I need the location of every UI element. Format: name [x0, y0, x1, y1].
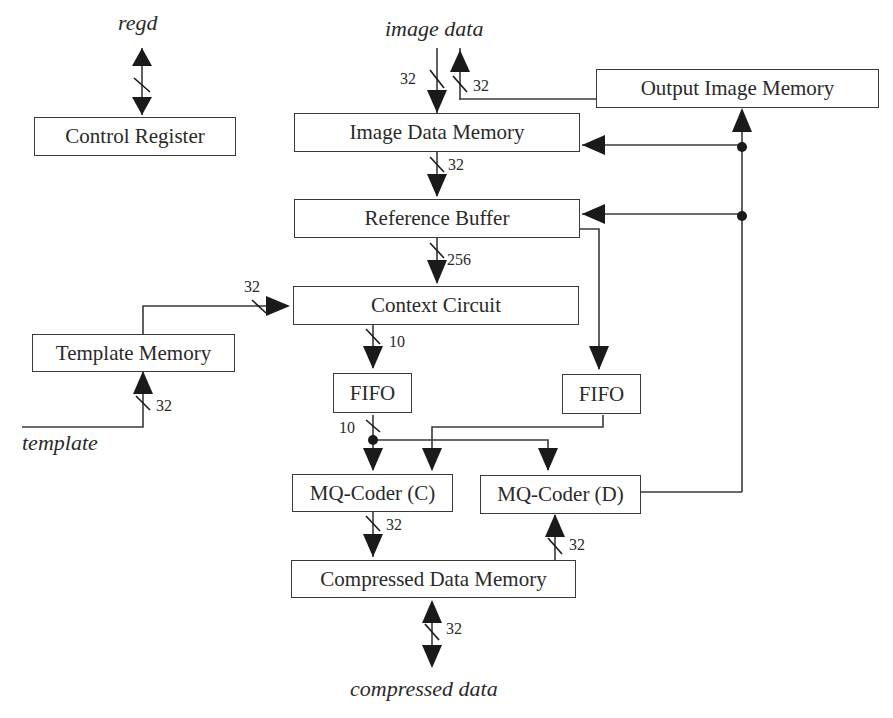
context-circuit-block: Context Circuit — [293, 286, 579, 325]
compressed-data-label: compressed data — [350, 676, 498, 702]
image-data-label: image data — [385, 16, 483, 42]
reference-buffer-block: Reference Buffer — [294, 199, 580, 238]
bus-width-fifo-out: 10 — [339, 419, 355, 437]
bus-width-mqc-cdm: 32 — [386, 516, 402, 534]
arrow-up-icon — [132, 48, 152, 66]
compressed-data-memory-block: Compressed Data Memory — [291, 560, 576, 598]
bus-width-idm-rb: 32 — [448, 156, 464, 174]
control-register-block: Control Register — [34, 117, 236, 156]
bus-width-template-in: 32 — [156, 397, 172, 415]
bus-width-cc-fifo: 10 — [389, 333, 405, 351]
regd-label: regd — [118, 10, 158, 36]
bus-width-image-in: 32 — [400, 70, 416, 88]
mq-coder-d-block: MQ-Coder (D) — [480, 475, 641, 514]
bus-width-image-out: 32 — [473, 77, 489, 95]
bus-width-rb-cc: 256 — [447, 251, 471, 269]
template-memory-block: Template Memory — [32, 334, 235, 372]
template-label: template — [22, 430, 98, 456]
image-data-memory-block: Image Data Memory — [294, 113, 580, 152]
bus-width-cdm-mqd: 32 — [569, 536, 585, 554]
fifo-left-block: FIFO — [333, 373, 412, 413]
output-image-memory-block: Output Image Memory — [596, 69, 879, 108]
mq-coder-c-block: MQ-Coder (C) — [292, 474, 453, 512]
bus-width-tm-cc: 32 — [244, 278, 260, 296]
bus-width-compressed-io: 32 — [446, 620, 462, 638]
fifo-right-block: FIFO — [562, 374, 641, 414]
arrow-down-icon — [132, 97, 152, 115]
